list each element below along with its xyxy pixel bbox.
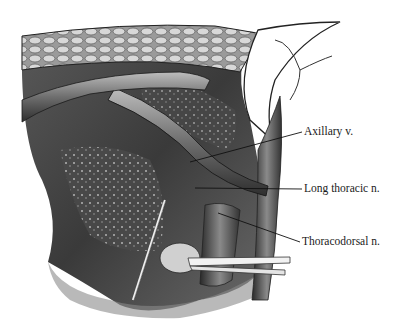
label-axillary-vein: Axillary v. (304, 125, 353, 137)
surgical-illustration (0, 0, 408, 332)
label-long-thoracic-nerve: Long thoracic n. (304, 182, 380, 194)
dissection-field (22, 25, 272, 318)
label-thoracodorsal-nerve: Thoracodorsal n. (302, 235, 380, 247)
skin-flap (244, 22, 340, 140)
